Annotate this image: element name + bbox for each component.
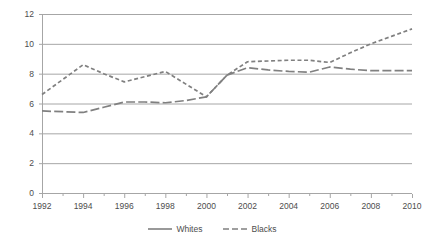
solid-line-key-icon: [147, 224, 173, 234]
x-axis-label: 1992: [27, 202, 57, 211]
legend-item-blacks[interactable]: Blacks: [222, 224, 276, 234]
x-axis-label: 2008: [356, 202, 386, 211]
x-axis-label: 2010: [397, 202, 424, 211]
y-axis-label: 10: [12, 40, 34, 49]
line-chart: 024681012 199219941996199820002002200420…: [0, 0, 424, 247]
x-axis-label: 2004: [274, 202, 304, 211]
x-axis-label: 1996: [109, 202, 139, 211]
y-axis-label: 0: [12, 189, 34, 198]
x-axis-label: 1994: [68, 202, 98, 211]
axis-lines: [39, 14, 43, 197]
dashed-line-key-icon: [222, 224, 248, 234]
legend-item-whites[interactable]: Whites: [147, 224, 202, 234]
x-axis-label: 2000: [191, 202, 221, 211]
y-axis-label: 6: [12, 100, 34, 109]
gridlines: [42, 15, 412, 194]
x-axis-ticks: [43, 194, 413, 198]
legend-label-whites: Whites: [176, 225, 202, 234]
x-axis-label: 2006: [315, 202, 345, 211]
series-line-blacks: [42, 29, 412, 97]
y-axis-label: 4: [12, 129, 34, 138]
x-axis-label: 2002: [233, 202, 263, 211]
legend-label-blacks: Blacks: [251, 225, 276, 234]
x-axis-label: 1998: [150, 202, 180, 211]
series-lines: [42, 29, 412, 113]
y-axis-label: 2: [12, 159, 34, 168]
y-axis-label: 8: [12, 70, 34, 79]
chart-legend: Whites Blacks: [0, 224, 424, 234]
y-axis-label: 12: [12, 10, 34, 19]
